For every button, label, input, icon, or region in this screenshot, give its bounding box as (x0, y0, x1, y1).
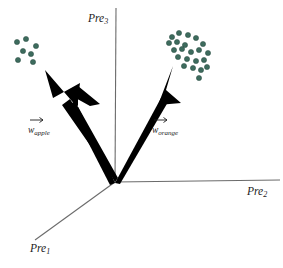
cluster-dot (171, 47, 176, 52)
cluster-dot (205, 50, 210, 55)
cluster-dot (176, 30, 181, 35)
cluster-dot (193, 58, 198, 63)
diagram-canvas: Pre3 Pre2 Pre1 wapple worange (0, 0, 283, 268)
cluster-dot (190, 65, 195, 70)
cluster-dot (198, 67, 203, 72)
cluster-dot (196, 75, 201, 80)
cluster-dot (184, 56, 189, 61)
cluster-dot (201, 57, 206, 62)
cluster-dot (166, 40, 171, 45)
cluster-dot (185, 32, 190, 37)
cluster-dot (20, 48, 25, 53)
cluster-dot (169, 34, 174, 39)
cluster-dot (28, 51, 33, 56)
cluster-dot (200, 41, 205, 46)
cluster-dot (23, 36, 28, 41)
cluster-dot (188, 49, 193, 54)
cluster-dot (204, 64, 209, 69)
cluster-dot (175, 54, 180, 59)
cluster-dot (33, 43, 38, 48)
cluster-dot (193, 35, 198, 40)
cluster-dot (14, 39, 19, 44)
cluster-dot (15, 57, 20, 62)
cluster-dot (174, 39, 179, 44)
cluster-dot (196, 47, 201, 52)
cluster-dot (30, 59, 35, 64)
cluster-dot (181, 63, 186, 68)
vector-space-diagram: Pre3 Pre2 Pre1 wapple worange (0, 0, 283, 268)
cluster-dot (179, 46, 184, 51)
